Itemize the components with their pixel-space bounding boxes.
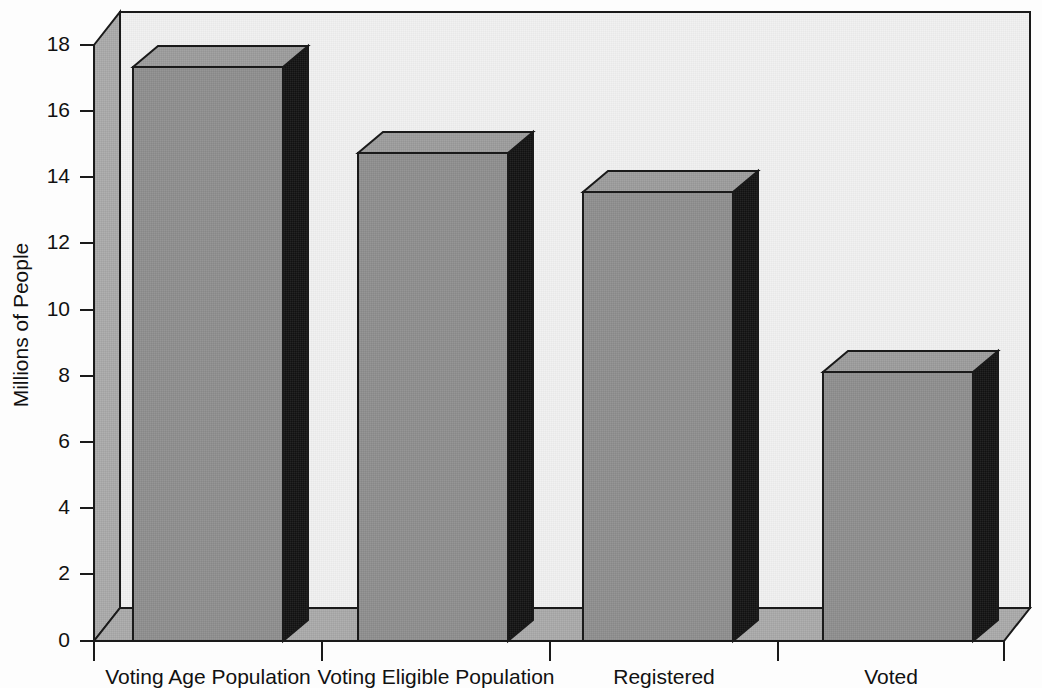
y-tick-label: 6 (58, 429, 70, 452)
x-axis (94, 641, 1004, 661)
x-tick-label: Registered (613, 665, 715, 688)
bar-side-face (733, 171, 758, 641)
y-tick-label: 8 (58, 363, 70, 386)
bar-front-face (823, 372, 973, 641)
bar-top-face (358, 132, 533, 153)
chart-container: 0 2 4 6 8 10 12 14 16 18 Millions of Peo… (0, 0, 1042, 688)
y-axis-ticks (80, 45, 94, 641)
x-tick-label: Voting Eligible Population (317, 665, 554, 688)
y-tick-label: 12 (47, 230, 70, 253)
bar-front-face (358, 153, 508, 641)
bar-group[interactable] (358, 132, 533, 641)
bar-group[interactable] (133, 46, 308, 641)
bar-group[interactable] (823, 351, 998, 641)
y-tick-label: 16 (47, 98, 70, 121)
y-axis-title: Millions of People (9, 243, 32, 408)
plot-left-wall (94, 12, 120, 641)
bar-front-face (583, 192, 733, 641)
y-axis: 0 2 4 6 8 10 12 14 16 18 (47, 32, 94, 651)
y-tick-label: 0 (58, 628, 70, 651)
bar-chart-3d: 0 2 4 6 8 10 12 14 16 18 Millions of Peo… (0, 0, 1042, 688)
y-tick-label: 2 (58, 561, 70, 584)
bar-front-face (133, 67, 283, 641)
bar-side-face (973, 351, 998, 641)
y-tick-label: 14 (47, 164, 71, 187)
bar-side-face (508, 132, 533, 641)
x-tick-label: Voted (864, 665, 918, 688)
y-axis-tick-labels: 0 2 4 6 8 10 12 14 16 18 (47, 32, 71, 651)
bar-top-face (133, 46, 308, 67)
bar-group[interactable] (583, 171, 758, 641)
bar-side-face (283, 46, 308, 641)
x-axis-tick-labels: Voting Age Population Voting Eligible Po… (105, 665, 918, 688)
y-tick-label: 18 (47, 32, 70, 55)
bar-top-face (823, 351, 998, 372)
y-tick-label: 4 (58, 495, 70, 518)
x-tick-label: Voting Age Population (105, 665, 311, 688)
bar-top-face (583, 171, 758, 192)
y-tick-label: 10 (47, 297, 70, 320)
